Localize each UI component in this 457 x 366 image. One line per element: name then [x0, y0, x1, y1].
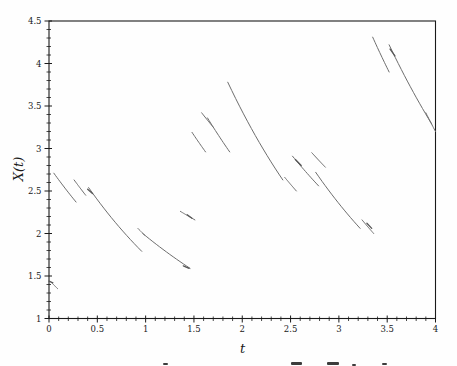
x-tick-label: 3 — [336, 324, 341, 334]
x-axis-tick-labels: 00.511.522.533.54 — [46, 324, 438, 334]
y-tick-label: 2.5 — [28, 186, 42, 196]
y-axis-ticks — [45, 21, 53, 319]
jump-hook-mark — [49, 281, 53, 283]
trajectory-segment — [89, 188, 142, 252]
y-tick-label: 4.5 — [28, 16, 42, 26]
figure-container: 00.511.522.533.54 11.522.533.544.5 t X(t… — [0, 0, 457, 366]
trajectory-segment — [362, 220, 374, 234]
trajectory-segment — [426, 113, 436, 132]
caption-fragment — [382, 363, 387, 365]
trajectory-segment — [285, 177, 297, 191]
x-tick-label: 1 — [143, 324, 148, 334]
jump-hook-marks — [49, 49, 395, 283]
trajectory-segment — [389, 45, 432, 124]
plot-area-border — [49, 21, 436, 319]
trajectory-segment — [74, 180, 86, 195]
trajectory-segment — [54, 173, 76, 202]
trajectory-segment — [143, 234, 190, 269]
jump-hook-mark — [390, 49, 395, 56]
x-tick-label: 1.5 — [187, 324, 201, 334]
x-axis-label: t — [240, 341, 245, 356]
y-axis-tick-labels: 11.522.533.544.5 — [28, 16, 42, 324]
y-tick-label: 1.5 — [28, 271, 42, 281]
y-tick-label: 4 — [36, 59, 41, 69]
trajectory-segment — [316, 172, 360, 228]
y-tick-label: 3 — [36, 144, 41, 154]
y-tick-label: 1 — [36, 314, 41, 324]
trajectory-segment — [207, 118, 229, 152]
x-tick-label: 0 — [46, 324, 51, 334]
trajectory — [51, 37, 436, 289]
plot-frame — [49, 21, 436, 319]
chart-canvas: 00.511.522.533.54 11.522.533.544.5 — [0, 0, 457, 366]
y-tick-label: 2 — [36, 229, 41, 239]
x-tick-label: 0.5 — [91, 324, 105, 334]
x-tick-label: 3.5 — [380, 324, 394, 334]
x-tick-label: 4 — [433, 324, 438, 334]
x-tick-label: 2 — [240, 324, 245, 334]
x-tick-label: 2.5 — [284, 324, 298, 334]
jump-hook-mark — [187, 215, 192, 218]
y-tick-label: 3.5 — [28, 101, 42, 111]
trajectory-segment — [228, 82, 283, 180]
y-axis-label: X(t) — [11, 150, 26, 188]
caption-fragment — [291, 362, 302, 365]
x-axis-ticks — [49, 316, 436, 323]
jump-hook-mark — [295, 160, 301, 166]
caption-fragment — [327, 362, 339, 365]
caption-fragment — [163, 363, 168, 365]
trajectory-segment — [312, 153, 326, 167]
trajectory-segment — [192, 132, 206, 152]
trajectory-segment — [373, 37, 389, 72]
